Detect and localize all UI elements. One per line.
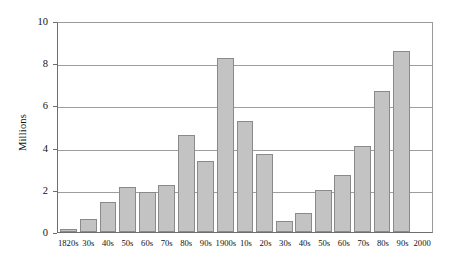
- bar: [100, 202, 117, 232]
- bar: [237, 121, 254, 232]
- y-tick-label: 4: [43, 142, 48, 155]
- bar-slot: [314, 23, 334, 232]
- bar-slot: [79, 23, 99, 232]
- bar: [393, 51, 410, 232]
- bar: [197, 161, 214, 232]
- y-axis-ticks: 0246810: [0, 22, 57, 233]
- bar-chart-figure: Millions 0246810 1820s30s40s50s60s70s80s…: [0, 0, 452, 264]
- bar: [354, 146, 371, 233]
- plot-area: [57, 22, 433, 233]
- bar-slot: [392, 23, 412, 232]
- bar: [374, 91, 391, 232]
- bar-slot: [176, 23, 196, 232]
- bar-slot: [98, 23, 118, 232]
- bar-slot: [294, 23, 314, 232]
- x-tick-label: 40s: [98, 236, 118, 256]
- gridline-0: [58, 234, 432, 235]
- bar: [315, 190, 332, 232]
- x-tick-label: 90s: [393, 236, 413, 256]
- y-tick-label: 0: [43, 226, 48, 239]
- x-tick-label: 30s: [79, 236, 99, 256]
- x-tick-label: 90s: [196, 236, 216, 256]
- x-tick-label: 70s: [157, 236, 177, 256]
- y-tick-mark: [53, 233, 57, 234]
- bar-slot: [59, 23, 79, 232]
- y-tick-label: 6: [43, 99, 48, 112]
- x-tick-label: 50s: [118, 236, 138, 256]
- x-tick-label: 1820s: [58, 236, 79, 256]
- bar: [178, 135, 195, 232]
- bar-slot: [157, 23, 177, 232]
- bar-series: [58, 23, 432, 232]
- x-tick-label: 30s: [275, 236, 295, 256]
- x-tick-label: 80s: [373, 236, 393, 256]
- y-tick-label: 10: [38, 15, 49, 28]
- bar-slot: [216, 23, 236, 232]
- x-axis-tick-labels: 1820s30s40s50s60s70s80s90s1900s10s20s30s…: [57, 236, 433, 256]
- bar: [119, 187, 136, 232]
- x-tick-label: 10s: [236, 236, 256, 256]
- x-tick-label: 1900s: [216, 236, 237, 256]
- bar: [80, 219, 97, 232]
- bar-slot: [118, 23, 138, 232]
- bar-slot: [333, 23, 353, 232]
- x-tick-label: 50s: [314, 236, 334, 256]
- x-tick-label: 70s: [354, 236, 374, 256]
- bar: [217, 58, 234, 232]
- bar: [139, 192, 156, 232]
- y-tick-label: 2: [43, 184, 48, 197]
- x-tick-label: 20s: [256, 236, 276, 256]
- bar-slot: [372, 23, 392, 232]
- bar-slot: [196, 23, 216, 232]
- bar-slot: [274, 23, 294, 232]
- bar: [334, 175, 351, 232]
- y-tick-label: 8: [43, 57, 48, 70]
- x-tick-label: 2000: [412, 236, 432, 256]
- bar: [295, 213, 312, 232]
- x-tick-label: 60s: [137, 236, 157, 256]
- x-tick-label: 60s: [334, 236, 354, 256]
- bar-slot: [353, 23, 373, 232]
- bar-slot: [411, 23, 431, 232]
- bar-slot: [255, 23, 275, 232]
- bar: [276, 221, 293, 232]
- bar: [60, 229, 77, 232]
- x-tick-label: 40s: [295, 236, 315, 256]
- bar: [158, 185, 175, 232]
- x-tick-label: 80s: [176, 236, 196, 256]
- bar-slot: [235, 23, 255, 232]
- bar: [256, 154, 273, 232]
- bar-slot: [137, 23, 157, 232]
